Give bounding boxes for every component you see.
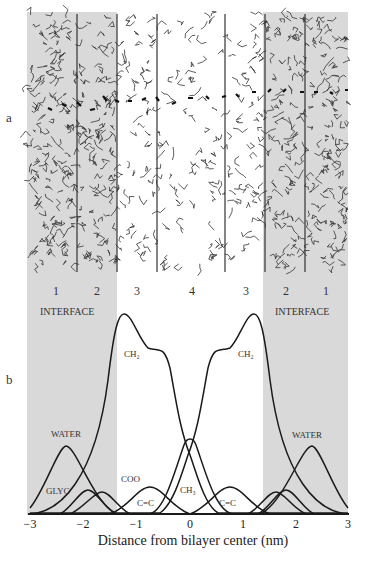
panel-label-b: b [6, 372, 13, 388]
ch2-label-left: CH₂ [124, 349, 140, 359]
glyc-label: GLYC [46, 486, 70, 496]
coo-label: COO [121, 474, 140, 484]
x-tick: 0 [187, 517, 193, 532]
x-tick: −2 [77, 517, 90, 532]
ch3-label: CH₃ [180, 485, 196, 495]
region-label: 3 [243, 284, 249, 299]
left-interface-shade [27, 12, 117, 515]
x-tick: 2 [293, 517, 299, 532]
cc-label-right: C=C [219, 498, 236, 508]
region-label: 1 [53, 284, 59, 299]
region-label: 2 [94, 284, 100, 299]
x-tick: 1 [240, 517, 246, 532]
x-axis-label: Distance from bilayer center (nm) [0, 533, 366, 549]
bilayer-figure-svg [0, 0, 366, 561]
water-label-left: WATER [51, 429, 81, 439]
region-label: 2 [283, 284, 289, 299]
region-label: 3 [134, 284, 140, 299]
ch2-label-right: CH₂ [238, 349, 254, 359]
figure: a b 1 2 3 4 3 2 1 INTERFACE INTERFACE CH… [0, 0, 366, 561]
interface-label-left: INTERFACE [40, 306, 94, 317]
x-tick: −3 [24, 517, 37, 532]
interface-label-right: INTERFACE [275, 306, 329, 317]
panel-label-a: a [6, 110, 12, 126]
water-label-right: WATER [292, 430, 322, 440]
cc-label-left: C=C [137, 498, 154, 508]
region-label: 1 [323, 284, 329, 299]
x-tick: −1 [130, 517, 143, 532]
region-label: 4 [189, 284, 195, 299]
x-tick: 3 [345, 517, 351, 532]
